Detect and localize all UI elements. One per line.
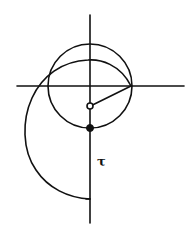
hollow-point [87, 103, 93, 109]
radius-segment [93, 86, 132, 105]
filled-point [87, 125, 94, 132]
tau-label: τ [97, 155, 106, 168]
outer-curve [25, 60, 131, 199]
geometric-diagram [0, 0, 196, 226]
